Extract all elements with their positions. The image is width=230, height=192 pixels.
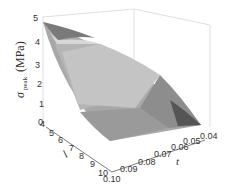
svg-text:6: 6 <box>58 135 63 145</box>
svg-text:9: 9 <box>90 159 95 169</box>
svg-text:0.09: 0.09 <box>120 164 138 174</box>
svg-text:3: 3 <box>35 60 40 70</box>
svg-text:5: 5 <box>49 128 54 138</box>
z-axis-label: σ peak (MPa) <box>13 41 29 98</box>
svg-text:peak: peak <box>21 76 29 90</box>
svg-text:0.10: 0.10 <box>103 174 121 184</box>
svg-text:0: 0 <box>38 117 43 127</box>
svg-text:0.04: 0.04 <box>200 131 218 141</box>
svg-text:5: 5 <box>33 13 38 23</box>
svg-text:1: 1 <box>39 99 44 109</box>
z-axis-ticks: 5 4 3 2 1 0 <box>33 13 44 127</box>
svg-text:7: 7 <box>69 143 74 153</box>
svg-text:0.05: 0.05 <box>183 136 201 146</box>
svg-text:8: 8 <box>79 151 84 161</box>
svg-text:4: 4 <box>35 37 40 47</box>
svg-text:2: 2 <box>37 79 42 89</box>
t-axis-label: t <box>176 155 180 167</box>
svg-text:0.07: 0.07 <box>154 149 172 159</box>
surface <box>43 22 201 141</box>
svg-text:σ: σ <box>13 91 27 98</box>
svg-text:(MPa): (MPa) <box>13 41 27 72</box>
surface-plot: 4 5 6 7 8 9 10 l 0.10 0.09 0.08 0.07 0.0… <box>0 0 230 192</box>
svg-text:0.08: 0.08 <box>138 157 156 167</box>
